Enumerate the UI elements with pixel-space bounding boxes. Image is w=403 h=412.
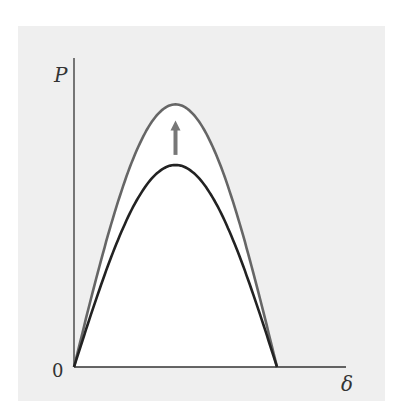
- figure: P δ 0: [0, 0, 403, 412]
- y-axis-label: P: [53, 63, 68, 87]
- x-axis-label: δ: [341, 372, 353, 396]
- origin-label: 0: [52, 360, 63, 381]
- chart: P δ 0: [0, 0, 403, 412]
